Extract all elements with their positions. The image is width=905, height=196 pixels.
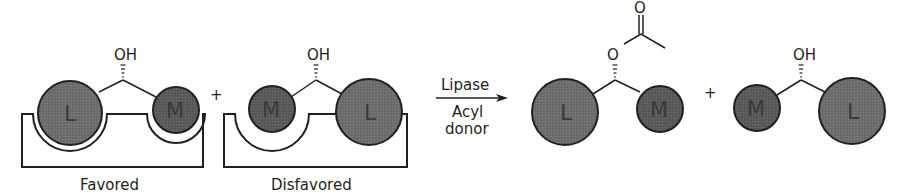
large-group-label: L [364,100,377,125]
large-group-label: L [847,99,860,124]
plus-sign: + [704,84,717,102]
reaction-arrow: Lipase Acyl donor [436,76,508,138]
hashed-wedge [799,65,804,77]
product-ester: O O L M [532,0,683,145]
disfavored-complex: OH M L Disfavored [224,46,407,194]
reaction-scheme: OH L M Favored + OH M L Disfavored Lipas… [0,0,905,196]
carbonyl-oxygen-label: O [634,0,646,17]
medium-group-label: M [650,98,668,122]
reagent-label-line1: Acyl [452,103,483,121]
medium-group-label: M [262,98,280,122]
reagent-label-line2: donor [445,120,489,138]
large-group-label: L [64,101,77,126]
catalyst-label: Lipase [441,76,489,94]
hashed-wedge [121,65,126,77]
hashed-wedge [613,65,618,77]
bond-right [316,80,342,94]
hydroxyl-label: OH [307,46,330,64]
medium-group-label: M [747,97,765,121]
hashed-wedge [314,65,319,77]
bond-carbonyl-methyl [641,34,665,48]
hydroxyl-label: OH [793,46,816,64]
bond-o-carbonyl [624,34,641,44]
plus-sign: + [210,86,223,104]
favored-complex: OH L M Favored [22,46,205,194]
medium-group-label: M [166,99,184,123]
product-alcohol: OH M L [734,46,885,144]
large-group-label: L [560,100,573,125]
ester-oxygen-label: O [607,46,619,64]
hydroxyl-label: OH [114,46,137,64]
bond-right [123,80,156,97]
bond-left [291,80,316,97]
favored-label: Favored [80,176,139,194]
disfavored-label: Disfavored [271,176,352,194]
bond-left [99,80,123,92]
